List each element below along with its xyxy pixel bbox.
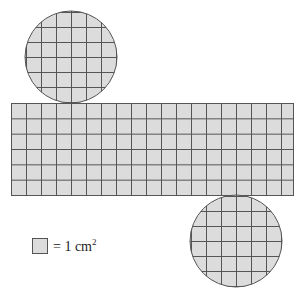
- legend-label: = 1 cm2: [53, 237, 97, 254]
- legend-superscript: 2: [92, 237, 97, 247]
- bottom-circle: [190, 195, 282, 287]
- top-circle: [25, 11, 117, 103]
- unit-square-swatch: [33, 239, 48, 254]
- legend: = 1 cm2: [33, 237, 97, 254]
- cylinder-net-diagram: = 1 cm2: [0, 0, 298, 296]
- rectangle-lateral-surface: [12, 104, 294, 196]
